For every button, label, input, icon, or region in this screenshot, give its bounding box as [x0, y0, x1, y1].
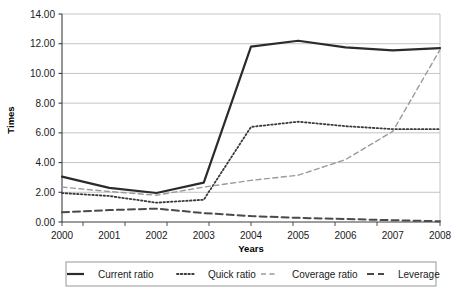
y-axis-tick-label: 6.00 [36, 127, 56, 138]
legend-label-leverage: Leverage [398, 269, 440, 280]
x-axis-tick-label: 2004 [240, 230, 263, 241]
legend-label-coverage-ratio: Coverage ratio [292, 269, 358, 280]
y-axis-title: Times [5, 106, 16, 133]
chart-legend: Current ratioQuick ratioCoverage ratioLe… [66, 262, 440, 286]
x-axis-tick-labels: 200020012002200320042005200620072008 [51, 230, 452, 241]
y-axis-tick-label: 12.00 [30, 38, 55, 49]
y-axis-tick-label: 14.00 [30, 9, 55, 20]
chart-canvas: 0.002.004.006.008.0010.0012.0014.00 2000… [0, 0, 457, 293]
x-axis-tick-label: 2003 [193, 230, 216, 241]
legend-label-current-ratio: Current ratio [98, 269, 154, 280]
x-axis-tick-label: 2005 [287, 230, 310, 241]
y-axis-tick-label: 10.00 [30, 68, 55, 79]
y-axis-tick-label: 0.00 [36, 217, 56, 228]
x-axis-tick-label: 2007 [382, 230, 405, 241]
legend-label-quick-ratio: Quick ratio [208, 269, 256, 280]
x-axis-tick-label: 2008 [429, 230, 452, 241]
line-chart: 0.002.004.006.008.0010.0012.0014.00 2000… [0, 0, 457, 293]
x-axis-tick-label: 2002 [145, 230, 168, 241]
y-axis-tick-label: 2.00 [36, 187, 56, 198]
x-axis-title: Years [238, 243, 263, 254]
y-axis-tick-label: 8.00 [36, 98, 56, 109]
x-axis-tick-label: 2001 [98, 230, 121, 241]
x-axis-tick-label: 2006 [334, 230, 357, 241]
y-axis-tick-label: 4.00 [36, 157, 56, 168]
x-axis-tick-label: 2000 [51, 230, 74, 241]
